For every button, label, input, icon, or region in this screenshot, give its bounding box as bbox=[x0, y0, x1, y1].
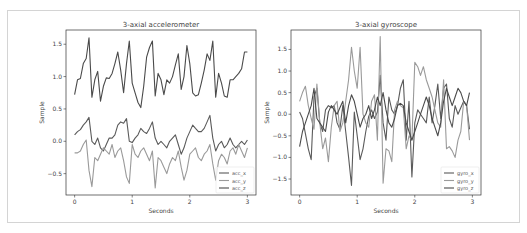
gyroscope-xtick-label: 3 bbox=[470, 198, 474, 205]
gyroscope-legend-label-gyro_x: gyro_x bbox=[457, 170, 474, 177]
gyroscope-y-axis-label: Sample bbox=[263, 101, 271, 124]
gyroscope-legend-label-gyro_y: gyro_y bbox=[457, 178, 474, 185]
accelerometer-legend-label-acc_x: acc_x bbox=[232, 170, 246, 177]
gyroscope-ytick-label: 1.5 bbox=[277, 45, 287, 52]
accelerometer-xtick-label: 0 bbox=[73, 198, 77, 205]
accelerometer-ytick-label: 0.5 bbox=[52, 105, 62, 112]
accelerometer-ytick-label: −0.5 bbox=[47, 170, 62, 177]
gyroscope-ytick-label: −1.0 bbox=[272, 153, 287, 160]
accelerometer-xtick-label: 3 bbox=[245, 198, 249, 205]
gyroscope-x-axis-label: Seconds bbox=[373, 207, 398, 214]
accelerometer-legend-label-acc_y: acc_y bbox=[232, 178, 246, 185]
accelerometer-x-axis-label: Seconds bbox=[148, 207, 173, 214]
gyroscope-ytick-label: −0.5 bbox=[272, 132, 287, 139]
accelerometer-y-axis-label: Sample bbox=[38, 101, 46, 124]
gyroscope-legend-label-gyro_z: gyro_z bbox=[457, 185, 474, 192]
gyroscope-xtick-label: 2 bbox=[413, 198, 417, 205]
accelerometer-series-acc_z bbox=[75, 38, 248, 108]
accelerometer-ytick-label: 1.5 bbox=[52, 40, 62, 47]
accelerometer-ytick-label: 0.0 bbox=[52, 137, 62, 144]
gyroscope-ytick-label: −1.5 bbox=[272, 175, 287, 182]
accelerometer-legend-label-acc_z: acc_z bbox=[232, 185, 246, 192]
accelerometer-chart-title: 3-axial accelerometer bbox=[123, 21, 200, 29]
gyroscope-ytick-label: 0.5 bbox=[277, 89, 287, 96]
gyroscope-xtick-label: 1 bbox=[355, 198, 359, 205]
figure-canvas: 0123−0.50.00.51.01.53-axial acceleromete… bbox=[0, 0, 527, 233]
accelerometer-ytick-label: 1.0 bbox=[52, 73, 62, 80]
accelerometer-series-acc_x bbox=[75, 115, 248, 154]
gyroscope-ytick-label: 0.0 bbox=[277, 110, 287, 117]
accelerometer-xtick-label: 1 bbox=[130, 198, 134, 205]
gyroscope-chart-title: 3-axial gyroscope bbox=[355, 21, 417, 29]
accelerometer-xtick-label: 2 bbox=[188, 198, 192, 205]
gyroscope-ytick-label: 1.0 bbox=[277, 67, 287, 74]
gyroscope-xtick-label: 0 bbox=[298, 198, 302, 205]
